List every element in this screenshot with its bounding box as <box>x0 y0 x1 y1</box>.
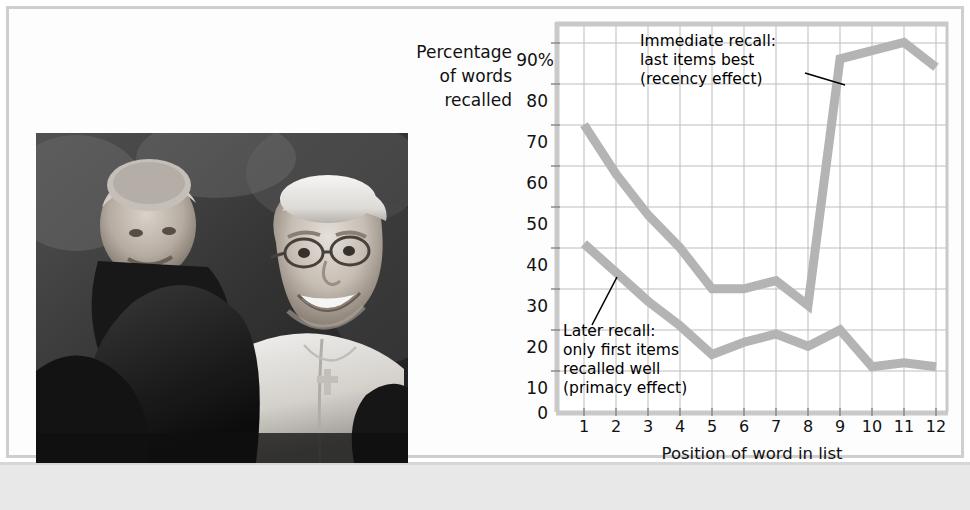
chart-serial-position: Percentage of words recalled 90% 80 70 6… <box>0 0 970 470</box>
x-tick-label-3: 3 <box>633 419 663 435</box>
x-tick-label-11: 11 <box>889 419 919 435</box>
x-tick-label-9: 9 <box>825 419 855 435</box>
annotation-immediate-recall: Immediate recall: last items best (recen… <box>640 32 776 89</box>
x-tick-label-4: 4 <box>665 419 695 435</box>
x-axis-title: Position of word in list <box>556 444 948 463</box>
figure-serial-position-curve: Vincenzo Pinto/AFP/Getty Images Percenta… <box>0 0 970 510</box>
x-tick-label-2: 2 <box>601 419 631 435</box>
x-tick-label-1: 1 <box>569 419 599 435</box>
x-tick-label-8: 8 <box>793 419 823 435</box>
plot-area <box>0 0 970 470</box>
x-tick-label-7: 7 <box>761 419 791 435</box>
x-tick-label-10: 10 <box>857 419 887 435</box>
x-tick-label-12: 12 <box>921 419 951 435</box>
x-tick-label-5: 5 <box>697 419 727 435</box>
x-tick-label-6: 6 <box>729 419 759 435</box>
annotation-later-recall: Later recall: only first items recalled … <box>563 322 687 398</box>
